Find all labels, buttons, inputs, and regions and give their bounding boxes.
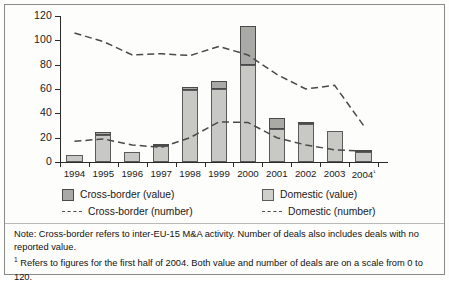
x-tick-mark <box>233 163 234 167</box>
x-tick-mark <box>205 163 206 167</box>
plot-area: 020406080100120 <box>60 16 378 162</box>
line-cross-border-number <box>74 122 363 151</box>
y-tick-label: 40 <box>12 106 52 118</box>
legend-label-cross-border-number: Cross-border (number) <box>88 206 193 217</box>
y-tick-label: 120 <box>12 9 52 21</box>
footnote-marker: 1 <box>14 256 18 263</box>
swatch-cross-border-icon <box>62 189 74 201</box>
line-domestic-number <box>74 33 363 125</box>
legend-item-cross-border-value: Cross-border (value) <box>14 189 234 201</box>
x-tick-mark <box>147 163 148 167</box>
line-series-overlay <box>60 16 378 162</box>
legend-label-cross-border-value: Cross-border (value) <box>80 189 174 200</box>
chart-legend: Cross-border (value) Domestic (value) Cr… <box>14 186 434 220</box>
y-tick-label: 0 <box>12 155 52 167</box>
dashed-line-cross-border-icon <box>62 211 82 213</box>
x-tick-mark <box>89 163 90 167</box>
note-divider <box>5 223 444 224</box>
x-tick-mark <box>378 163 379 167</box>
footnote-body: Refers to figures for the first half of … <box>14 258 423 281</box>
y-tick-label: 80 <box>12 58 52 70</box>
note-text: Note: Cross-border refers to inter-EU-15… <box>14 228 434 255</box>
note-block: Note: Cross-border refers to inter-EU-15… <box>14 228 434 284</box>
legend-label-domestic-value: Domestic (value) <box>280 189 357 200</box>
legend-row-numbers: Cross-border (number) Domestic (number) <box>14 203 434 220</box>
x-tick-mark <box>349 163 350 167</box>
swatch-domestic-icon <box>262 189 274 201</box>
dashed-line-domestic-icon <box>262 211 282 213</box>
y-tick-label: 60 <box>12 82 52 94</box>
legend-item-domestic-number: Domestic (number) <box>234 206 434 217</box>
x-axis-ticks: 1994199519961997199819992000200120022003… <box>60 163 388 185</box>
y-tick-label: 100 <box>12 33 52 45</box>
y-tick-label: 20 <box>12 131 52 143</box>
x-tick-label-2004: 2004¹ <box>344 168 384 180</box>
x-tick-mark <box>320 163 321 167</box>
legend-row-values: Cross-border (value) Domestic (value) <box>14 186 434 203</box>
x-tick-mark <box>60 163 61 167</box>
legend-item-cross-border-number: Cross-border (number) <box>14 206 234 217</box>
footnote-text: 1 Refers to figures for the first half o… <box>14 255 434 284</box>
legend-label-domestic-number: Domestic (number) <box>288 206 376 217</box>
x-tick-mark <box>118 163 119 167</box>
x-tick-mark <box>262 163 263 167</box>
x-tick-mark <box>176 163 177 167</box>
legend-item-domestic-value: Domestic (value) <box>234 189 434 201</box>
x-tick-mark <box>291 163 292 167</box>
